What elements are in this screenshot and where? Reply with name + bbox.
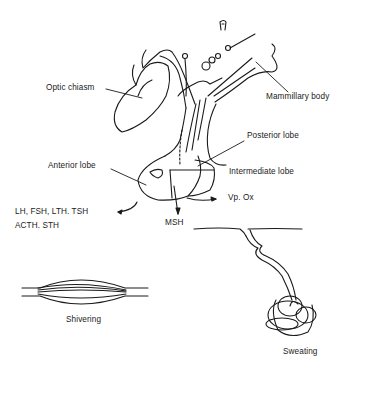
label-mammillary-body: Mammillary body — [266, 93, 329, 101]
label-intermediate-lobe: Intermediate lobe — [229, 168, 294, 176]
label-sweating: Sweating — [283, 348, 317, 356]
label-optic-chiasm: Optic chiasm — [46, 84, 95, 92]
label-msh: MSH — [165, 219, 184, 227]
label-vp-ox: Vp. Ox — [228, 194, 254, 202]
neuron-glyph-icon — [220, 21, 226, 31]
label-posterior-lobe: Posterior lobe — [247, 132, 299, 140]
label-anterior-hormones-1: LH, FSH, LTH. TSH — [15, 208, 88, 216]
pituitary-gland-shape — [138, 130, 215, 200]
label-anterior-hormones-2: ACTH. STH — [15, 222, 59, 230]
sweat-gland-illustration — [194, 228, 316, 336]
mammillary-body-shape — [207, 44, 277, 165]
label-anterior-lobe: Anterior lobe — [48, 162, 96, 170]
hypothalamus-pituitary-illustration — [0, 0, 366, 393]
muscle-illustration — [22, 280, 148, 304]
infundibulum-shape — [165, 34, 255, 156]
label-shivering: Shivering — [66, 316, 101, 324]
